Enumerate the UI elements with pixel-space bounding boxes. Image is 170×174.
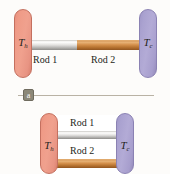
panel-b-rod-2-copper — [52, 159, 122, 168]
panel-a-caption-box: a — [23, 89, 34, 101]
panel-a-hot-reservoir: Th — [14, 9, 32, 78]
thermal-conduction-figure: Th Tc Rod 1 Rod 2 a Rod 1 Rod 2 Th Tc — [0, 0, 170, 174]
panel-a-hot-temperature-label: Th — [15, 37, 31, 49]
panel-b-rod-2-label: Rod 2 — [70, 146, 94, 156]
panel-b-rod-1-silver — [52, 131, 122, 139]
panel-a-rod-2-label: Rod 2 — [91, 55, 115, 65]
panel-a-caption-rule — [18, 95, 154, 96]
panel-b-cold-reservoir: Tc — [116, 113, 134, 174]
panel-b-rod-1-label: Rod 1 — [70, 118, 94, 128]
panel-a-rod-1-label: Rod 1 — [33, 55, 57, 65]
panel-a-rod-1-silver — [25, 40, 77, 50]
panel-a-cold-reservoir: Tc — [139, 9, 157, 78]
panel-a-rod-2-copper — [77, 40, 145, 50]
panel-b-hot-temperature-label: Th — [41, 140, 57, 152]
panel-a-cold-temperature-label: Tc — [140, 37, 156, 49]
panel-b-cold-temperature-label: Tc — [117, 140, 133, 152]
panel-b-hot-reservoir: Th — [40, 113, 58, 174]
